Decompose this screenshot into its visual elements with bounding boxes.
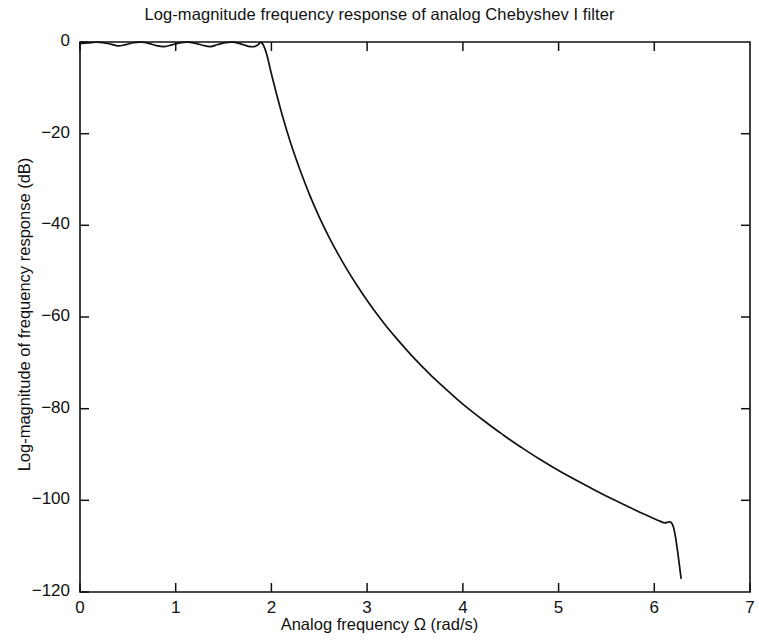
y-tick-label-m20: −20: [8, 123, 70, 143]
plot-area: [0, 0, 759, 642]
y-tick-label-m80: −80: [8, 398, 70, 418]
x-tick-label-6: 6: [634, 598, 674, 618]
figure-canvas: Log-magnitude frequency response of anal…: [0, 0, 759, 642]
y-tick-label-m100: −100: [8, 489, 70, 509]
x-tick-label-4: 4: [443, 598, 483, 618]
axis-box: [80, 42, 750, 592]
x-tick-label-5: 5: [539, 598, 579, 618]
x-tick-label-0: 0: [60, 598, 100, 618]
y-tick-label-m60: −60: [8, 306, 70, 326]
x-axis-ticks: [80, 42, 750, 592]
y-axis-ticks: [80, 42, 750, 592]
x-tick-label-7: 7: [730, 598, 759, 618]
x-tick-label-1: 1: [156, 598, 196, 618]
y-tick-label-m40: −40: [8, 214, 70, 234]
y-tick-label-0: 0: [8, 31, 70, 51]
response-curve: [80, 42, 681, 578]
x-tick-label-3: 3: [347, 598, 387, 618]
y-tick-label-m120: −120: [8, 581, 70, 601]
x-tick-label-2: 2: [251, 598, 291, 618]
